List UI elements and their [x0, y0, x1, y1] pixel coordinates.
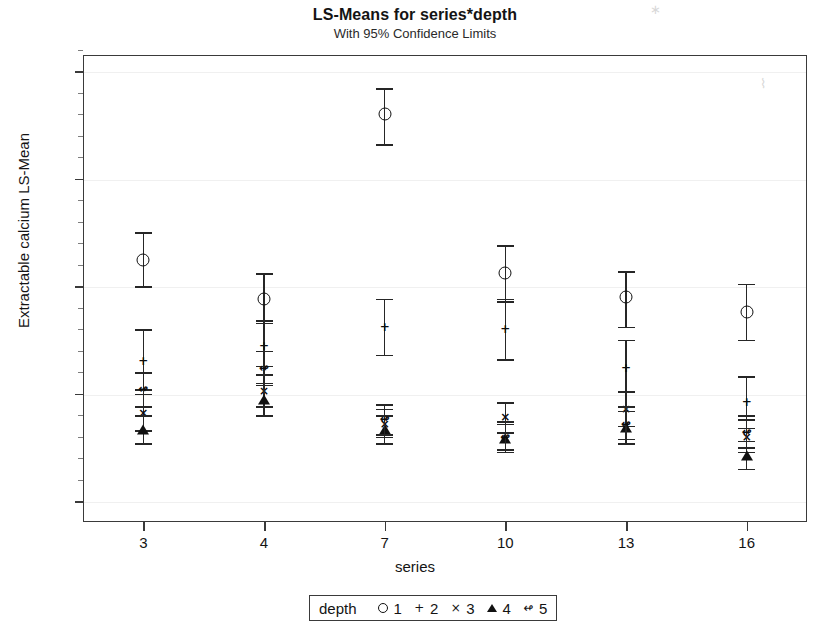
y-minor-tick: [78, 415, 83, 416]
error-bar-cap-upper: [618, 391, 635, 393]
error-bar-cap-upper: [135, 415, 152, 417]
y-minor-tick: [78, 93, 83, 94]
y-minor-tick: [78, 437, 83, 438]
legend[interactable]: depth 1+2×34↫5: [309, 595, 557, 621]
y-tick-mark: [75, 501, 83, 503]
gridline: [84, 180, 806, 181]
y-minor-tick: [78, 200, 83, 201]
error-bar-cap-upper: [738, 284, 755, 286]
y-minor-tick: [78, 136, 83, 137]
y-minor-tick: [78, 243, 83, 244]
legend-item-depth-2[interactable]: +2: [413, 600, 438, 617]
x-tick-mark: [505, 522, 507, 531]
error-bar-cap-lower: [738, 340, 755, 342]
y-tick-mark: [75, 394, 83, 396]
chart-title: LS-Means for series*depth: [0, 6, 830, 24]
y-tick-mark: [75, 179, 83, 181]
x-tick-label: 3: [113, 534, 173, 551]
y-minor-tick: [78, 480, 83, 481]
y-minor-tick: [78, 157, 83, 158]
error-bar-cap-lower: [738, 469, 755, 471]
y-minor-tick: [78, 265, 83, 266]
gridline: [84, 502, 806, 503]
x-tick-label: 16: [717, 534, 777, 551]
error-bar-cap-lower: [497, 449, 514, 451]
y-axis-label: Extractable calcium LS-Mean: [15, 21, 32, 441]
y-minor-tick: [78, 308, 83, 309]
x-tick-label: 10: [475, 534, 535, 551]
legend-item-label: 2: [430, 600, 438, 617]
legend-times-icon: ×: [449, 602, 462, 615]
y-minor-tick: [78, 351, 83, 352]
error-bar-cap-upper: [497, 299, 514, 301]
error-bar-cap-upper: [497, 245, 514, 247]
legend-item-label: 4: [503, 600, 511, 617]
legend-item-label: 1: [394, 600, 402, 617]
error-bar-cap-upper: [497, 402, 514, 404]
scan-artifact: ∗: [650, 2, 661, 17]
error-bar-cap-lower: [376, 434, 393, 436]
gridline: [84, 287, 806, 288]
x-tick-label: 4: [234, 534, 294, 551]
error-bar-cap-lower: [376, 144, 393, 146]
y-minor-tick: [78, 372, 83, 373]
error-bar-cap-upper: [618, 340, 635, 342]
gridline: [84, 395, 806, 396]
y-minor-tick: [78, 114, 83, 115]
error-bar-cap-upper: [618, 271, 635, 273]
error-bar-cap-lower: [376, 355, 393, 357]
error-bar-cap-lower: [618, 443, 635, 445]
x-tick-label: 7: [355, 534, 415, 551]
error-bar-cap-lower: [376, 443, 393, 445]
error-bar-cap-upper: [256, 320, 273, 322]
error-bar-cap-upper: [497, 421, 514, 423]
x-axis-label: series: [0, 558, 830, 575]
error-bar-cap-lower: [497, 359, 514, 361]
legend-plus-icon: +: [413, 602, 426, 615]
x-tick-label: 13: [596, 534, 656, 551]
error-bar-cap-lower: [135, 443, 152, 445]
error-bar-cap-upper: [135, 232, 152, 234]
error-bar-cap-upper: [738, 376, 755, 378]
legend-title: depth: [319, 600, 357, 617]
legend-item-depth-1[interactable]: 1: [377, 600, 402, 617]
y-minor-tick: [78, 50, 83, 51]
error-bar-cap-lower: [618, 327, 635, 329]
x-tick-mark: [264, 522, 266, 531]
x-tick-mark: [626, 522, 628, 531]
y-minor-tick: [78, 222, 83, 223]
error-bar-cap-upper: [376, 88, 393, 90]
error-bar-cap-lower: [256, 415, 273, 417]
x-tick-mark: [747, 522, 749, 531]
y-tick-mark: [75, 286, 83, 288]
plot-area: [83, 55, 807, 522]
error-bar-cap-lower: [497, 452, 514, 454]
error-bar-cap-lower: [135, 286, 152, 288]
legend-triangle-icon: [486, 602, 499, 615]
error-bar-cap-upper: [376, 299, 393, 301]
error-bar-cap-upper: [135, 372, 152, 374]
legend-item-depth-4[interactable]: 4: [486, 600, 511, 617]
x-tick-mark: [385, 522, 387, 531]
legend-circle-icon: [377, 602, 390, 615]
x-tick-mark: [143, 522, 145, 531]
y-tick-mark: [75, 71, 83, 73]
error-bar-cap-lower: [135, 406, 152, 408]
chart-subtitle: With 95% Confidence Limits: [0, 26, 830, 41]
legend-item-depth-3[interactable]: ×3: [449, 600, 474, 617]
y-minor-tick: [78, 329, 83, 330]
error-bar-cap-upper: [135, 329, 152, 331]
gridline: [84, 72, 806, 73]
legend-item-label: 3: [466, 600, 474, 617]
y-minor-tick: [78, 458, 83, 459]
error-bar-cap-lower: [256, 385, 273, 387]
error-bar-cap-upper: [738, 415, 755, 417]
scan-artifact: ⌇: [760, 76, 766, 91]
error-bar-cap-upper: [618, 406, 635, 408]
error-bar-cap-lower: [618, 439, 635, 441]
error-bar-cap-upper: [256, 273, 273, 275]
error-bar-cap-lower: [738, 447, 755, 449]
legend-item-depth-5[interactable]: ↫5: [522, 600, 547, 617]
legend-item-label: 5: [539, 600, 547, 617]
legend-five-icon: ↫: [522, 602, 535, 615]
